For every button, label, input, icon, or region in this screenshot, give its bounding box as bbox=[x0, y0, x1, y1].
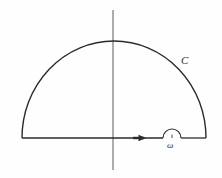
arrow-right-icon bbox=[133, 135, 146, 141]
contour-diagram-figure: C ω bbox=[0, 0, 222, 178]
semicircular-contour-arc bbox=[22, 41, 206, 138]
pole-label-omega: ω bbox=[167, 141, 173, 150]
contour-label-c: C bbox=[181, 55, 188, 66]
contour-diagram-canvas bbox=[0, 0, 222, 178]
